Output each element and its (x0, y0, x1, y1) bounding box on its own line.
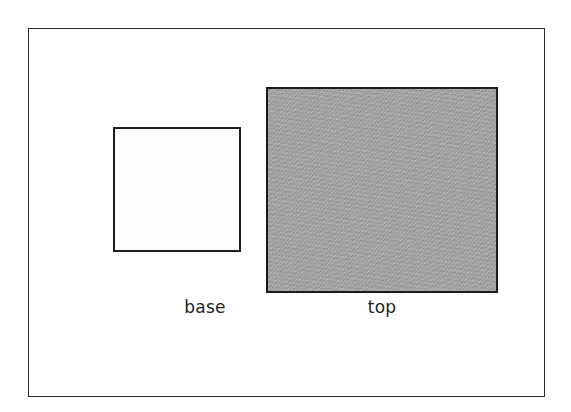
top-rectangle-label: top (310, 297, 454, 317)
figure-frame: base top (28, 28, 545, 397)
base-rectangle-label: base (133, 297, 277, 317)
top-rectangle (266, 87, 498, 293)
base-rectangle (113, 127, 241, 252)
